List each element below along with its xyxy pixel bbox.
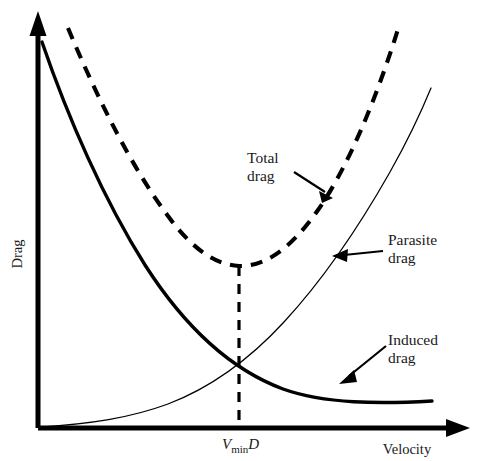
vmind-subscript: min: [231, 443, 249, 455]
parasite-drag-leader-line: [344, 251, 383, 255]
svg-text:VminD: VminD: [222, 436, 259, 455]
x-axis: [38, 419, 470, 437]
total-drag-label-line2: drag: [247, 167, 275, 184]
parasite-drag-curve: [40, 88, 431, 427]
annotation-induced-drag: Induced drag: [339, 331, 438, 384]
annotation-parasite-drag: Parasite drag: [332, 231, 437, 266]
parasite-drag-label-line2: drag: [388, 249, 416, 266]
induced-drag-arrowhead-icon: [339, 370, 357, 384]
total-drag-label-line1: Total: [247, 149, 279, 166]
induced-drag-leader-line: [349, 346, 386, 376]
induced-drag-label-line1: Induced: [388, 331, 438, 348]
x-axis-arrowhead: [446, 419, 470, 437]
parasite-drag-label-line1: Parasite: [388, 231, 437, 248]
vmind-suffix: D: [247, 436, 259, 452]
vmind-tick-label: VminD: [222, 436, 259, 455]
x-axis-label: Velocity: [383, 441, 432, 457]
drag-velocity-figure: Total drag Parasite drag Induced drag Dr…: [0, 0, 478, 461]
y-axis-label: Drag: [9, 240, 25, 269]
y-axis-arrowhead: [30, 11, 47, 36]
total-drag-curve: [68, 26, 399, 266]
annotation-total-drag: Total drag: [247, 149, 333, 203]
induced-drag-label-line2: drag: [388, 349, 416, 366]
drag-velocity-chart: Total drag Parasite drag Induced drag Dr…: [0, 0, 478, 461]
total-drag-leader-line: [294, 172, 325, 192]
y-axis: [30, 11, 47, 428]
